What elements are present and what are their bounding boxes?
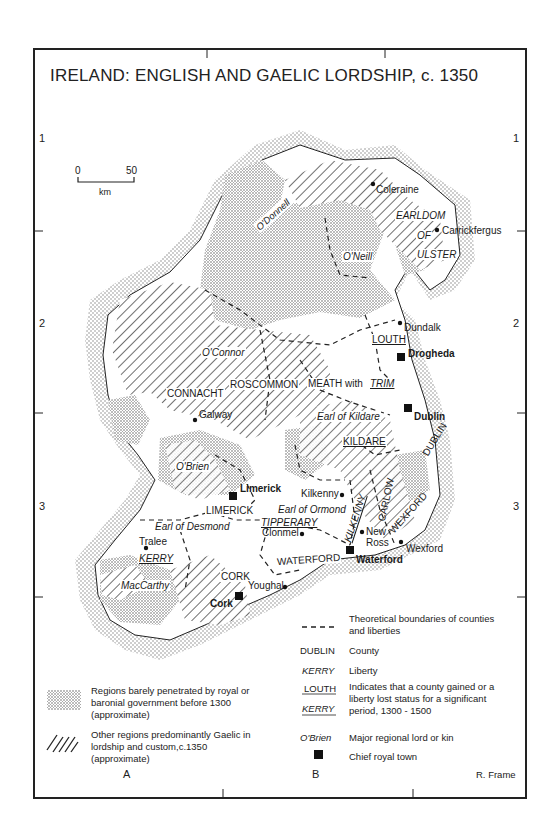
town-wexford: Wexford bbox=[406, 543, 443, 554]
legend-status-key-kerry: KERRY bbox=[302, 703, 334, 714]
legend-status-text: Indicates that a county gained or a libe… bbox=[349, 681, 494, 717]
label-ulster: ULSTER bbox=[416, 249, 457, 260]
town-tralee: Tralee bbox=[139, 536, 167, 547]
town-clonmel: Clonmel bbox=[262, 527, 299, 538]
grid-col-a: A bbox=[123, 768, 130, 780]
town-galway: Galway bbox=[199, 409, 232, 420]
label-limerick-county: LIMERICK bbox=[205, 505, 254, 516]
map-title: IRELAND: ENGLISH AND GAELIC LORDSHIP, c.… bbox=[50, 66, 478, 86]
town-youghal: Youghal bbox=[248, 580, 284, 591]
label-earl-of-desmond: Earl of Desmond bbox=[154, 521, 230, 532]
town-coleraine: Coleraine bbox=[376, 184, 419, 195]
label-oneill: O'Neill bbox=[342, 251, 373, 262]
label-maccarthy: MacCarthy bbox=[120, 580, 170, 591]
legend-liberty-key: KERRY bbox=[302, 665, 334, 676]
grid-row-1-right: 1 bbox=[513, 132, 519, 144]
label-roscommon: ROSCOMMON bbox=[229, 379, 299, 390]
grid-row-3-left: 3 bbox=[39, 500, 45, 512]
grid-row-2-left: 2 bbox=[39, 317, 45, 329]
scale-start: 0 bbox=[75, 165, 81, 176]
legend-county-desc: County bbox=[349, 645, 379, 657]
scale-unit: km bbox=[99, 187, 111, 198]
legend-lord-desc: Major regional lord or kin bbox=[349, 732, 454, 744]
label-earl-of-ormond: Earl of Ormond bbox=[277, 504, 347, 515]
legend-hatch-text: Other regions predominantly Gaelic in lo… bbox=[91, 729, 250, 765]
legend-boundary-line-2: and liberties bbox=[349, 625, 494, 637]
chief-town-waterford: Waterford bbox=[356, 554, 403, 565]
grid-row-3-right: 3 bbox=[513, 500, 519, 512]
chief-town-cork: Cork bbox=[210, 598, 233, 609]
legend-hatch-line-3: (approximate) bbox=[91, 753, 250, 765]
grid-col-b: B bbox=[312, 768, 319, 780]
legend-boundary-text: Theoretical boundaries of counties and l… bbox=[349, 613, 494, 637]
label-earl-of-kildare: Earl of Kildare bbox=[316, 411, 381, 422]
scale-end: 50 bbox=[126, 165, 137, 176]
legend-hatch-line-1: Other regions predominantly Gaelic in bbox=[91, 729, 250, 741]
legend-status-line-3: period, 1300 - 1500 bbox=[349, 705, 494, 717]
legend-lord-key: O'Brien bbox=[300, 732, 331, 743]
town-kilkenny: Kilkenny bbox=[301, 488, 339, 499]
town-new-ross-2: Ross bbox=[366, 537, 389, 548]
label-earldom: EARLDOM bbox=[395, 210, 446, 221]
legend-liberty-desc: Liberty bbox=[349, 665, 378, 677]
legend-stipple-line-1: Regions barely penetrated by royal or bbox=[91, 685, 249, 697]
label-kildare: KILDARE bbox=[342, 436, 387, 447]
chief-town-limerick: Limerick bbox=[240, 483, 281, 494]
legend-stipple-line-3: (approximate) bbox=[91, 709, 249, 721]
label-louth: LOUTH bbox=[371, 334, 407, 345]
legend-hatch-line-2: lordship and custom,c.1350 bbox=[91, 741, 250, 753]
legend-stipple-text: Regions barely penetrated by royal or ba… bbox=[91, 685, 249, 721]
label-obrien: O'Brien bbox=[175, 461, 210, 472]
label-kerry: KERRY bbox=[138, 553, 174, 564]
label-trim: TRIM bbox=[369, 378, 395, 389]
legend-town-desc: Chief royal town bbox=[349, 751, 417, 763]
legend-status-key-louth: LOUTH bbox=[304, 683, 336, 694]
town-carrickfergus: Carrickfergus bbox=[442, 225, 501, 236]
chief-town-drogheda: Drogheda bbox=[408, 348, 455, 359]
label-cork-county: CORK bbox=[220, 571, 251, 582]
grid-row-2-right: 2 bbox=[513, 317, 519, 329]
grid-row-1-left: 1 bbox=[39, 132, 45, 144]
label-connacht: CONNACHT bbox=[166, 388, 225, 399]
label-of: OF bbox=[416, 230, 432, 241]
legend-status-line-1: Indicates that a county gained or a bbox=[349, 681, 494, 693]
legend-county-key: DUBLIN bbox=[300, 645, 335, 656]
legend-boundary-line-1: Theoretical boundaries of counties bbox=[349, 613, 494, 625]
label-meath-with: MEATH with bbox=[307, 378, 364, 389]
town-dundalk: Dundalk bbox=[404, 322, 441, 333]
map-credit: R. Frame bbox=[476, 769, 516, 780]
town-new-ross-1: New bbox=[366, 526, 386, 537]
legend-stipple-line-2: baronial government before 1300 bbox=[91, 697, 249, 709]
legend-status-line-2: liberty lost status for a significant bbox=[349, 693, 494, 705]
chief-town-dublin: Dublin bbox=[414, 411, 445, 422]
label-oconnor: O'Connor bbox=[201, 347, 246, 358]
